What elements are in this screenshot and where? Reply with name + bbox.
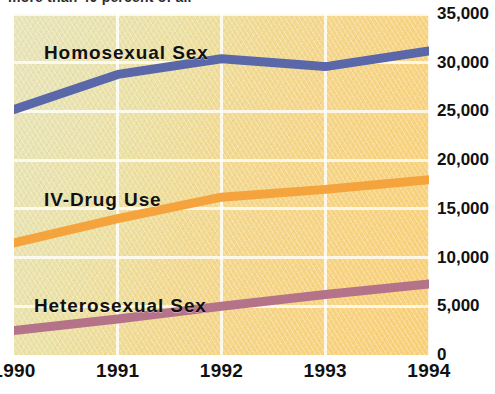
series-label: Heterosexual Sex — [34, 295, 207, 317]
y-axis-tick-label: 30,000 — [437, 53, 489, 73]
x-axis-tick-label: 1994 — [407, 360, 450, 382]
y-axis-labels: 35,00030,00025,00020,00015,00010,0005,00… — [437, 0, 495, 394]
y-axis-tick-label: 10,000 — [437, 248, 489, 268]
truncated-headline-text: more than 40 percent of all — [8, 0, 192, 5]
chart-root: more than 40 percent of all Homosexual S… — [0, 0, 495, 394]
y-axis-tick-label: 35,000 — [437, 4, 489, 24]
series-label: Homosexual Sex — [44, 42, 209, 64]
x-axis-tick-label: 1992 — [200, 360, 243, 382]
x-axis-tick-label: 1990 — [0, 360, 36, 382]
y-axis-tick-label: 5,000 — [437, 296, 480, 316]
y-axis-tick-label: 15,000 — [437, 199, 489, 219]
plot-area: Homosexual SexIV-Drug UseHeterosexual Se… — [14, 14, 429, 355]
x-axis-labels: 19901991199219931994 — [0, 360, 440, 392]
x-axis-tick-label: 1991 — [96, 360, 139, 382]
series-label: IV-Drug Use — [44, 189, 162, 211]
y-axis-tick-label: 25,000 — [437, 101, 489, 121]
truncated-headline: more than 40 percent of all — [0, 0, 495, 13]
y-axis-tick-label: 20,000 — [437, 150, 489, 170]
x-axis-tick-label: 1993 — [304, 360, 347, 382]
